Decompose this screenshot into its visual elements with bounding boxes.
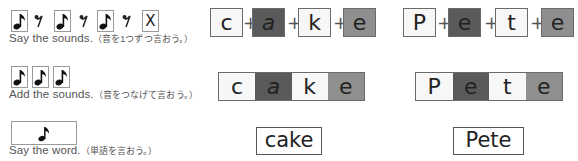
caption-en: Say the word. [9,144,81,156]
note-box-wide [11,121,77,145]
letter-segment: t [489,73,526,100]
letter-segment: e [328,73,364,100]
caption-say-word: Say the word.（単語を言おう。） [9,144,158,157]
letter-tile: P [403,8,436,37]
note-icon [99,12,112,30]
note-icon [13,68,26,86]
caption-jp: （音をつなげて言おう。） [94,90,198,100]
note-icon [34,68,47,86]
rest-icon [122,14,131,28]
note-icon [13,12,26,30]
letter-segment: P [416,73,453,100]
note-box-1 [11,10,28,32]
caption-en: Add the sounds. [9,88,94,100]
rest-icon [34,14,43,28]
letter-tile: e [541,8,574,37]
note-icon [56,12,69,30]
word-box-pete: Pete [453,127,524,155]
caption-en: Say the sounds. [9,32,93,44]
rest-icon [79,14,88,28]
letter-tile: t [495,8,528,37]
plus-sign: + [333,8,342,37]
letter-tile: c [210,8,243,37]
joined-word-pete: P e t e [415,72,563,101]
note-box-3 [53,66,70,88]
caption-jp: （音を1つずつ言おう。） [93,34,193,44]
note-box-2 [32,66,49,88]
plus-sign: + [530,8,539,37]
caption-say-sounds: Say the sounds.（音を1つずつ言おう。） [9,32,193,45]
letter-tile: k [298,8,331,37]
plus-sign: + [437,8,446,37]
caption-jp: （単語を言おう。） [81,146,158,156]
letter-segment: e [453,73,490,100]
letter-tile: a [252,8,285,37]
x-icon: X [142,10,159,32]
word-box-cake: cake [256,127,322,155]
letter-segment: e [526,73,563,100]
letter-tile: e [343,8,376,37]
plus-sign: + [243,8,252,37]
letter-segment: k [292,73,328,100]
note-box-3 [97,10,114,32]
letter-segment: a [255,73,291,100]
letter-segment: c [219,73,255,100]
caption-add-sounds: Add the sounds.（音をつなげて言おう。） [9,88,198,101]
plus-sign: + [484,8,493,37]
note-icon [38,125,50,142]
note-box-2 [54,10,71,32]
plus-sign: + [287,8,296,37]
letter-tile: e [448,8,481,37]
joined-word-cake: c a k e [218,72,365,101]
note-box-1 [11,66,28,88]
note-icon [55,68,68,86]
